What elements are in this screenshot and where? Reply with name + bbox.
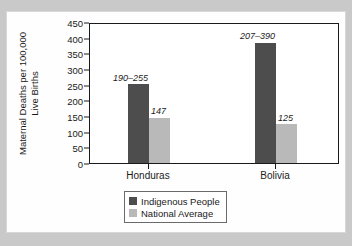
data-label-bolivia-indigenous: 207–390: [240, 31, 275, 41]
data-label-bolivia-national: 125: [278, 113, 293, 123]
y-axis-title-line-2: Live Births: [29, 32, 41, 155]
bar-honduras-indigenous[interactable]: [128, 84, 149, 163]
plot-area: 190–255 147 207–390 125: [89, 23, 339, 164]
y-axis-title: Maternal Deaths per 100,000 Live Births: [11, 23, 47, 164]
data-label-honduras-indigenous: 190–255: [113, 73, 148, 83]
data-label-honduras-national: 147: [151, 106, 166, 116]
legend-label-indigenous-people: Indigenous People: [141, 196, 220, 207]
legend-swatch-indigenous-people: [129, 197, 137, 205]
y-tick-label-100: 100: [67, 127, 83, 138]
legend-swatch-national-average: [129, 209, 137, 217]
bar-bolivia-national[interactable]: [276, 124, 297, 163]
legend-item-national-average[interactable]: National Average: [129, 207, 220, 219]
x-label-bolivia: Bolivia: [260, 170, 289, 181]
y-tick-label-250: 250: [67, 80, 83, 91]
y-tick-label-200: 200: [67, 96, 83, 107]
y-tick-label-300: 300: [67, 64, 83, 75]
y-tick-label-450: 450: [67, 18, 83, 29]
figure-panel: Maternal Deaths per 100,000 Live Births …: [6, 11, 346, 233]
screenshot-root: Maternal Deaths per 100,000 Live Births …: [0, 0, 352, 246]
x-tick-mark-honduras: [148, 164, 149, 169]
y-axis-title-line-1: Maternal Deaths per 100,000: [17, 32, 29, 155]
y-tick-label-0: 0: [78, 159, 83, 170]
x-label-honduras: Honduras: [126, 170, 169, 181]
legend-item-indigenous-people[interactable]: Indigenous People: [129, 195, 220, 207]
bar-bolivia-indigenous[interactable]: [255, 43, 276, 163]
y-tick-label-50: 50: [72, 143, 83, 154]
x-tick-mark-bolivia: [275, 164, 276, 169]
legend-label-national-average: National Average: [141, 208, 213, 219]
y-tick-label-350: 350: [67, 49, 83, 60]
bar-honduras-national[interactable]: [149, 118, 170, 163]
y-tick-label-150: 150: [67, 111, 83, 122]
legend: Indigenous People National Average: [124, 191, 227, 223]
y-axis-ticks: 450 400 350 300 250 200 150 100 50 0: [47, 23, 89, 164]
y-tick-label-400: 400: [67, 33, 83, 44]
